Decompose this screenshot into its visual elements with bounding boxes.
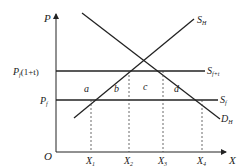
tariff-supply-label: Sf+t (207, 65, 220, 77)
x2-label: X2 (123, 155, 133, 167)
x4-label: X4 (196, 155, 206, 167)
domestic-demand-label: DH (220, 113, 233, 125)
area-a-label: a (84, 83, 89, 94)
tariff-diagram: P X O Pf(1+t) Pf SH Sf+t Sf DH a b c d X… (0, 0, 242, 168)
area-b-label: b (114, 83, 119, 94)
y-axis-label: P (43, 12, 51, 24)
tariff-price-label: Pf(1+t) (12, 66, 39, 78)
domestic-demand-curve (82, 13, 220, 119)
domestic-supply-label: SH (197, 14, 207, 26)
x1-label: X1 (85, 155, 95, 167)
svg-text:Pf(1+t): Pf(1+t) (12, 66, 39, 78)
foreign-supply-label: Sf (220, 94, 228, 106)
origin-label: O (44, 150, 52, 162)
x3-label: X3 (157, 155, 167, 167)
world-price-label: Pf (39, 95, 49, 107)
x-axis-label: X (228, 154, 237, 166)
domestic-supply-curve (74, 19, 194, 118)
area-d-label: d (174, 83, 180, 94)
svg-text:Pf: Pf (39, 95, 49, 107)
area-c-label: c (143, 81, 148, 92)
